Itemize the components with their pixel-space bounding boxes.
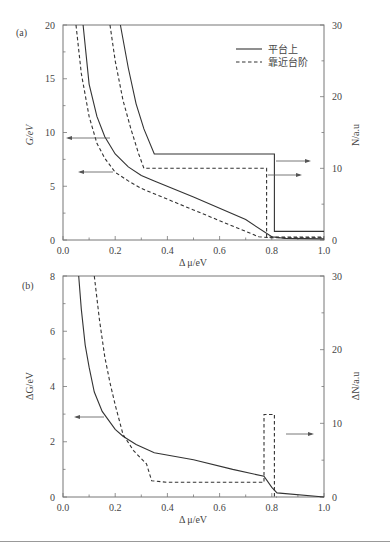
y-tick-label-right: 10 (332, 418, 342, 429)
y-tick-label-right: 0 (332, 235, 337, 246)
y-tick-label-left: 0 (50, 492, 55, 503)
panel-b-series (79, 276, 324, 497)
x-tick-label: 0.6 (213, 245, 226, 256)
panel-a-y-ticks-left: 05101520 (45, 20, 67, 246)
figure: (a) 0.00.20.40.60.81.0 05101520 0102030 … (0, 0, 390, 547)
series-line (120, 25, 324, 231)
y-tick-label-right: 20 (332, 344, 342, 355)
series-line (79, 276, 324, 497)
x-tick-label: 0.8 (266, 502, 279, 513)
panel-b-y-axis-left-label: ΔG/eV (24, 371, 35, 400)
panel-b-y-ticks-right: 0102030 (320, 271, 342, 503)
y-tick-label-right: 0 (332, 492, 337, 503)
x-tick-label: 0.2 (109, 245, 122, 256)
y-tick-label-left: 4 (50, 381, 55, 392)
arrowhead-left-icon (66, 136, 72, 140)
legend-label-near-step: 靠近台阶 (268, 56, 308, 68)
arrowhead-right-icon (305, 159, 311, 163)
y-tick-label-left: 5 (50, 181, 55, 192)
panel-b-plot-frame (63, 276, 324, 497)
y-tick-label-left: 0 (50, 235, 55, 246)
panel-b-label: (b) (22, 280, 34, 292)
arrowhead-left-icon (74, 415, 80, 419)
x-tick-label: 0.6 (213, 502, 226, 513)
y-tick-label-left: 8 (50, 271, 55, 282)
panel-a-label: (a) (16, 27, 27, 39)
panel-a-legend: 平台上 靠近台阶 (236, 43, 308, 68)
bottom-separator-line (0, 541, 390, 542)
y-tick-label-left: 10 (45, 127, 55, 138)
y-tick-label-right: 20 (332, 91, 342, 102)
panel-b-y-axis-right-label: ΔN/a.u (350, 372, 361, 400)
panel-a-chart: (a) 0.00.20.40.60.81.0 05101520 0102030 … (16, 20, 361, 269)
y-tick-label-left: 20 (45, 20, 55, 31)
panel-b-axis-arrows (74, 415, 314, 436)
arrowhead-left-icon (78, 170, 84, 174)
panel-a-y-axis-left-label: G/eV (24, 123, 35, 145)
y-tick-label-right: 30 (332, 20, 342, 31)
legend-label-on-terrace: 平台上 (268, 43, 298, 55)
panel-b-y-ticks-left: 02468 (50, 271, 67, 503)
panel-a-x-axis-label: Δ μ/eV (179, 257, 208, 268)
x-tick-label: 0.8 (266, 245, 279, 256)
panel-b-chart: (b) 0.00.20.40.60.81.0 02468 0102030 Δ μ… (22, 271, 361, 526)
x-tick-label: 0.0 (57, 502, 70, 513)
x-tick-label: 0.0 (57, 245, 70, 256)
x-tick-label: 0.4 (161, 502, 174, 513)
y-tick-label-right: 30 (332, 271, 342, 282)
y-tick-label-left: 2 (50, 436, 55, 447)
panel-b-x-ticks: 0.00.20.40.60.81.0 (57, 493, 331, 513)
arrowhead-right-icon (296, 173, 302, 177)
y-tick-label-right: 10 (332, 163, 342, 174)
series-line (94, 276, 277, 497)
x-tick-label: 1.0 (318, 502, 331, 513)
arrowhead-right-icon (308, 432, 314, 436)
x-tick-label: 1.0 (318, 245, 331, 256)
y-tick-label-left: 6 (50, 326, 55, 337)
x-tick-label: 0.2 (109, 502, 122, 513)
y-tick-label-left: 15 (45, 73, 55, 84)
x-tick-label: 0.4 (161, 245, 174, 256)
panel-a-y-axis-right-label: N/a.u (350, 124, 361, 146)
panel-b-x-axis-label: Δ μ/eV (179, 514, 208, 525)
panel-a-y-ticks-right: 0102030 (320, 20, 342, 246)
